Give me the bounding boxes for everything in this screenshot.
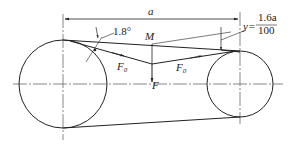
center-distance-label: a xyxy=(148,5,154,17)
point-m-label: M xyxy=(144,30,155,42)
deflection-reference-line xyxy=(152,32,231,44)
force-label: F xyxy=(151,79,159,91)
diagram-canvas: a 1.8° M F0 F0 F y= 1.6a 100 xyxy=(0,0,294,145)
tension-arrow-left xyxy=(112,53,124,57)
deflection-denominator: 100 xyxy=(258,24,275,36)
angle-arrow xyxy=(96,27,98,38)
angle-label: 1.8° xyxy=(113,25,131,37)
tension-right-label: F0 xyxy=(175,61,187,75)
angle-point xyxy=(94,49,97,52)
deflection-var-label: y= xyxy=(242,20,255,32)
tension-left-label: F0 xyxy=(116,60,128,74)
deflection-numerator: 1.6a xyxy=(258,11,277,23)
belt-deflected xyxy=(70,41,236,64)
belt-drive-diagram: a 1.8° M F0 F0 F y= 1.6a 100 xyxy=(0,0,294,145)
